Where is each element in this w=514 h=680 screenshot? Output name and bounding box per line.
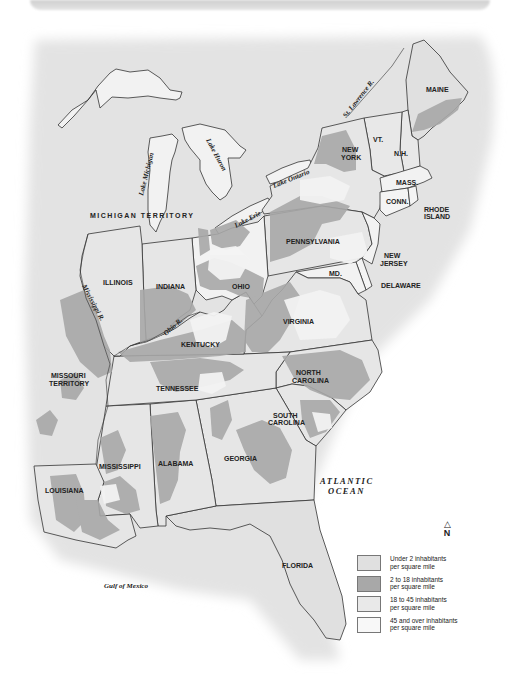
label-nj-2: JERSEY	[380, 260, 408, 267]
legend: Under 2 inhabitantsper square mile 2 to …	[357, 555, 507, 637]
label-illinois: ILLINOIS	[103, 279, 133, 286]
legend-swatch-18-to-45	[357, 596, 381, 612]
legend-label: 45 and over inhabitants	[390, 617, 458, 625]
north-compass: △ N	[440, 520, 454, 538]
label-missouri-2: TERRITORY	[49, 380, 89, 387]
legend-label: 2 to 18 inhabitants	[390, 576, 443, 584]
label-mass: MASS.	[396, 179, 418, 186]
label-missouri-1: MISSOURI	[51, 372, 86, 379]
label-nc-1: NORTH	[296, 369, 321, 376]
label-nh: N.H.	[394, 150, 408, 157]
label-tennessee: TENNESSEE	[156, 385, 199, 392]
legend-item: 2 to 18 inhabitantsper square mile	[357, 576, 507, 596]
label-sc-2: CAROLINA	[268, 419, 305, 426]
label-michigan-territory: MICHIGAN TERRITORY	[90, 212, 194, 219]
label-georgia: GEORGIA	[224, 455, 257, 462]
label-pennsylvania: PENNSYLVANIA	[286, 238, 340, 245]
label-ny-1: NEW	[342, 146, 359, 153]
label-virginia: VIRGINIA	[283, 318, 314, 325]
label-ri-2: ISLAND	[424, 213, 450, 220]
label-maine: MAINE	[426, 86, 449, 93]
label-delaware: DELAWARE	[381, 282, 421, 289]
label-atlantic-1: ATLANTIC	[319, 476, 374, 486]
legend-label: 18 to 45 inhabitants	[390, 596, 447, 604]
label-conn: CONN.	[386, 198, 409, 205]
legend-item: 18 to 45 inhabitantsper square mile	[357, 596, 507, 616]
legend-label: Under 2 inhabitants	[390, 555, 446, 563]
label-ny-2: YORK	[341, 154, 361, 161]
legend-swatch-45-plus	[357, 617, 381, 633]
label-indiana: INDIANA	[156, 283, 185, 290]
legend-sublabel: per square mile	[390, 624, 458, 632]
label-nc-2: CAROLINA	[292, 377, 329, 384]
label-atlantic-2: OCEAN	[328, 486, 365, 496]
north-label: N	[440, 529, 454, 538]
label-vt: VT.	[373, 136, 383, 143]
legend-sublabel: per square mile	[390, 563, 446, 571]
label-ohio: OHIO	[232, 283, 250, 290]
label-kentucky: KENTUCKY	[181, 341, 220, 348]
legend-item: Under 2 inhabitantsper square mile	[357, 555, 507, 575]
label-md: MD.	[329, 270, 342, 277]
label-ri-1: RHODE	[424, 206, 450, 213]
legend-item: 45 and over inhabitantsper square mile	[357, 617, 507, 637]
legend-sublabel: per square mile	[390, 583, 443, 591]
legend-swatch-2-to-18	[357, 576, 381, 592]
legend-sublabel: per square mile	[390, 604, 447, 612]
label-gulf-of-mexico: Gulf of Mexico	[104, 582, 148, 590]
label-sc-1: SOUTH	[273, 412, 298, 419]
label-mississippi: MISSISSIPPI	[99, 463, 141, 470]
label-alabama: ALABAMA	[158, 460, 193, 467]
label-nj-1: NEW	[384, 252, 401, 259]
legend-swatch-under-2	[357, 555, 381, 571]
label-louisiana: LOUISIANA	[45, 487, 84, 494]
label-florida: FLORIDA	[282, 562, 313, 569]
